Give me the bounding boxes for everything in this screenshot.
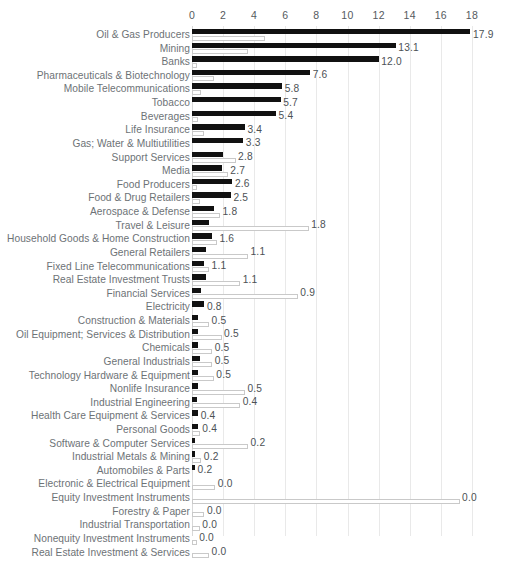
bar-primary	[192, 56, 379, 61]
bar-primary	[192, 261, 204, 266]
bar-primary	[192, 29, 470, 34]
x-tick-6: 6	[282, 9, 288, 21]
bar-primary	[192, 288, 201, 293]
bar-primary	[192, 356, 200, 361]
x-tick-4: 4	[251, 9, 257, 21]
bar-primary	[192, 43, 396, 48]
bar-primary	[192, 329, 198, 334]
category-label: Real Estate Investment & Services	[0, 545, 190, 561]
chart-row: Real Estate Investment & Services0.0	[0, 545, 505, 561]
value-label: 0.0	[212, 544, 227, 560]
bar-primary	[192, 152, 223, 157]
bar-primary	[192, 424, 198, 429]
x-tick-12: 12	[372, 9, 384, 21]
x-tick-18: 18	[466, 9, 478, 21]
bar-primary	[192, 192, 231, 197]
x-tick-10: 10	[341, 9, 353, 21]
bar-primary	[192, 165, 222, 170]
x-tick-8: 8	[313, 9, 319, 21]
bar-primary	[192, 138, 243, 143]
bar-primary	[192, 179, 232, 184]
bar-primary	[192, 438, 195, 443]
bar-primary	[192, 301, 204, 306]
x-axis-tick-labels: 024681012141618	[0, 9, 505, 25]
bar-secondary	[192, 553, 209, 558]
clipped-title-artifact	[28, 0, 88, 7]
bar-primary	[192, 397, 197, 402]
bar-primary	[192, 70, 310, 75]
bar-primary	[192, 83, 282, 88]
bar-primary	[192, 124, 245, 129]
x-tick-16: 16	[435, 9, 447, 21]
horizontal-bar-chart: 024681012141618 Oil & Gas Producers17.9M…	[0, 0, 505, 571]
plot-area: Oil & Gas Producers17.9Mining13.1Banks12…	[0, 26, 505, 566]
bar-primary	[192, 342, 198, 347]
bar-primary	[192, 370, 198, 375]
bar-primary	[192, 206, 214, 211]
bar-primary	[192, 97, 281, 102]
x-tick-14: 14	[404, 9, 416, 21]
bar-primary	[192, 247, 206, 252]
bar-primary	[192, 220, 209, 225]
bar-primary	[192, 315, 198, 320]
bar-primary	[192, 111, 276, 116]
x-tick-0: 0	[189, 9, 195, 21]
bar-primary	[192, 451, 195, 456]
bar-primary	[192, 465, 195, 470]
bar-primary	[192, 383, 198, 388]
x-tick-2: 2	[220, 9, 226, 21]
bar-primary	[192, 410, 198, 415]
bar-primary	[192, 233, 212, 238]
bar-primary	[192, 274, 206, 279]
